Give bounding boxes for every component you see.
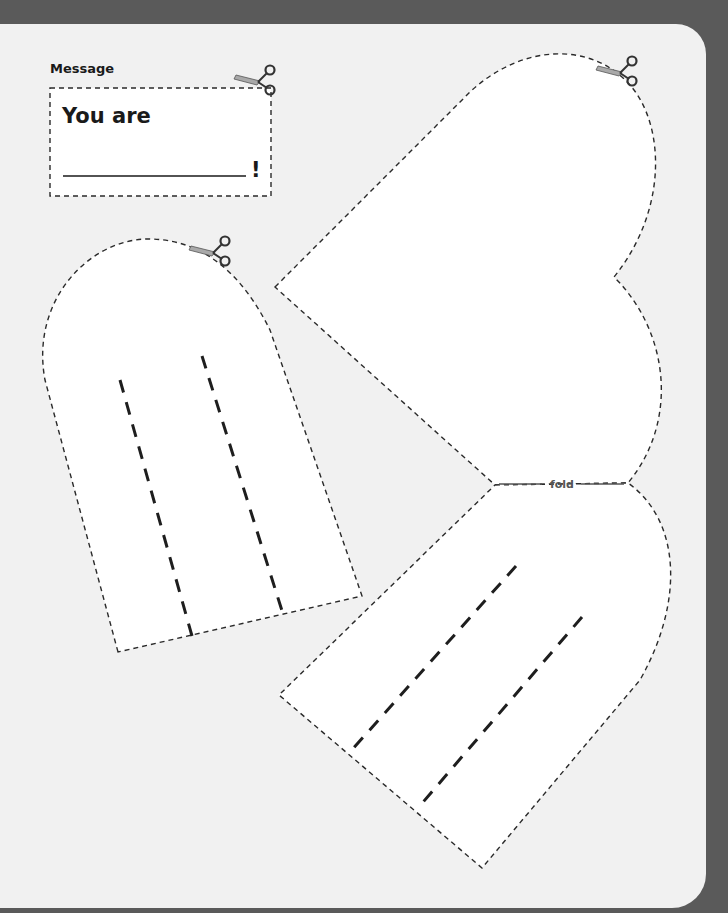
message-line1: You are [61,104,151,128]
message-label: Message [50,61,114,76]
cutout-artwork: Message You are ! fold [0,0,728,913]
cutout-upper-shape[interactable] [275,54,661,485]
fold-label: fold [550,478,574,491]
message-exclamation: ! [251,158,261,182]
